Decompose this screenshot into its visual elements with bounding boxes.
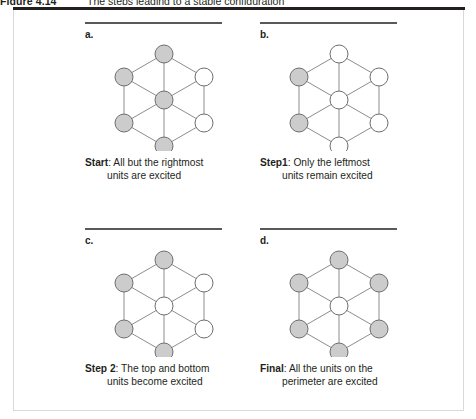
unit-node-bottom-left-excited xyxy=(115,320,133,338)
caption-colon: : xyxy=(116,363,119,374)
unit-node-bottom-left-excited xyxy=(115,114,133,132)
unit-node-top-right-resting xyxy=(195,68,213,86)
panel-grid: a. Start: All but the rightmost units ar… xyxy=(13,10,464,411)
network-graph-d xyxy=(246,245,436,357)
caption-line1: All the units on the xyxy=(289,363,373,374)
network-graph-c xyxy=(71,245,261,357)
caption-line2: units become excited xyxy=(85,376,253,389)
caption-line1: All but the rightmost xyxy=(113,157,203,168)
unit-node-bottom-right-excited xyxy=(370,320,388,338)
unit-node-bottom-left-excited xyxy=(290,320,308,338)
panel-rule xyxy=(260,22,397,24)
unit-node-top-left-excited xyxy=(290,274,308,292)
unit-node-top-left-excited xyxy=(290,68,308,86)
panel-caption: Start: All but the rightmost units are e… xyxy=(85,157,253,182)
panel-rule xyxy=(85,228,222,230)
panel-rule xyxy=(260,228,397,230)
figure-title: The steps leading to a stable configurat… xyxy=(87,0,284,5)
unit-node-bottom-left-excited xyxy=(290,114,308,132)
unit-node-top-excited xyxy=(155,45,173,63)
unit-node-top-left-excited xyxy=(115,274,133,292)
caption-line2: units remain excited xyxy=(260,170,428,183)
unit-node-bottom-resting xyxy=(330,137,348,151)
caption-label: Step 2 xyxy=(85,363,116,374)
unit-node-top-excited xyxy=(155,251,173,269)
unit-node-top-right-resting xyxy=(370,68,388,86)
unit-node-bottom-right-resting xyxy=(370,114,388,132)
figure-number: Figure 4.14 xyxy=(0,0,57,5)
panel-caption: Final: All the units on the perimeter ar… xyxy=(260,363,428,388)
network-graph-a xyxy=(71,39,261,151)
caption-label: Step1 xyxy=(260,157,288,168)
unit-node-bottom-excited xyxy=(155,137,173,151)
caption-line1: The top and bottom xyxy=(121,363,209,374)
unit-node-center-resting xyxy=(330,91,348,109)
unit-node-bottom-right-resting xyxy=(195,114,213,132)
panel-d: d. Final: All the units on the perimeter… xyxy=(246,228,436,388)
unit-node-bottom-right-resting xyxy=(195,320,213,338)
caption-colon: : xyxy=(288,157,291,168)
unit-node-top-excited xyxy=(330,251,348,269)
unit-node-top-right-excited xyxy=(370,274,388,292)
panel-rule xyxy=(85,22,222,24)
unit-node-top-resting xyxy=(330,45,348,63)
caption-label: Start xyxy=(85,157,108,168)
unit-node-top-left-excited xyxy=(115,68,133,86)
caption-label: Final xyxy=(260,363,284,374)
unit-node-top-right-resting xyxy=(195,274,213,292)
panel-a: a. Start: All but the rightmost units ar… xyxy=(71,22,261,182)
caption-line1: Only the leftmost xyxy=(293,157,369,168)
panel-caption: Step1: Only the leftmost units remain ex… xyxy=(260,157,428,182)
unit-node-center-resting xyxy=(330,297,348,315)
panel-caption: Step 2: The top and bottom units become … xyxy=(85,363,253,388)
panel-c: c. Step 2: The top and bottom units beco… xyxy=(71,228,261,388)
caption-colon: : xyxy=(284,363,287,374)
network-graph-b xyxy=(246,39,436,151)
unit-node-center-resting xyxy=(155,297,173,315)
panel-b: b. Step1: Only the leftmost units remain… xyxy=(246,22,436,182)
caption-colon: : xyxy=(108,157,111,168)
unit-node-bottom-excited xyxy=(155,343,173,357)
unit-node-center-excited xyxy=(155,91,173,109)
caption-line2: perimeter are excited xyxy=(260,376,428,389)
unit-node-bottom-excited xyxy=(330,343,348,357)
figure-caption: Figure 4.14 The steps leading to a stabl… xyxy=(0,0,476,5)
caption-line2: units are excited xyxy=(85,170,253,183)
